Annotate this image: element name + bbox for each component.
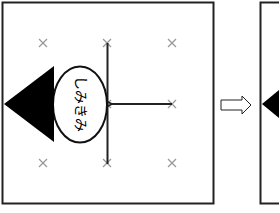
- diagram-canvas: しみきみ: [0, 0, 279, 213]
- robot-label: しみきみ: [73, 76, 89, 132]
- panel-before: しみきみ: [3, 3, 214, 204]
- panel-after: [261, 3, 280, 204]
- transition-arrow-icon: [221, 96, 251, 114]
